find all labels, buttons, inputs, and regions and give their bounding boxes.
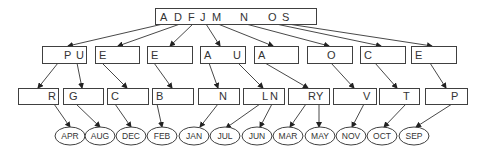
leaf-label: OCT [373,131,391,141]
edge-level3-to-leaf [200,104,218,127]
edge-root-to-level2 [218,24,273,46]
node-key: N [270,90,278,102]
leaf-node: AUG [85,127,115,145]
level3-node: N [199,89,240,105]
edge-level3-to-leaf [226,104,260,128]
node-key: E [415,49,422,61]
leaf-label: NOV [342,131,361,141]
edge-level2-to-level3 [102,63,127,88]
level3-node: R [19,89,59,105]
level2-node: E [148,47,193,64]
node-key: N [240,11,248,23]
edge-level2-to-level3 [238,63,263,88]
diagram-canvas: ADFJMNOSPUEEAUAOCERGCBNLNRYVTPAPRAUGDECF… [0,0,488,157]
level3-node: B [153,89,194,105]
leaf-label: APR [61,131,78,141]
leaf-node: JUN [242,127,272,145]
node-key: B [156,90,163,102]
leaf-node: JUL [210,127,240,145]
leaf-node: JAN [179,127,209,145]
node-key: R [48,90,56,102]
edge-level3-to-leaf [416,104,452,127]
leaf-label: AUG [91,131,109,141]
level3-node-box [426,89,468,105]
node-key: C [111,90,119,102]
edge-level2-to-level3 [375,63,397,88]
level2-node: E [412,47,457,64]
edge-root-to-level2 [170,24,193,46]
level3-node: G [64,89,104,105]
node-key: E [151,49,158,61]
leaf-node: MAY [305,127,335,145]
level3-node: LN [244,89,285,105]
node-key: R [308,90,316,102]
leaf-node: MAR [273,127,303,145]
node-key: D [174,11,182,23]
nodes: ADFJMNOSPUEEAUAOCERGCBNLNRYVTPAPRAUGDECF… [19,9,468,146]
edge-level3-to-leaf [384,104,406,127]
level2-node: A [255,47,299,64]
level2-node: AU [201,47,246,64]
edge-root-to-level2 [288,24,432,46]
level3-node: V [334,89,377,105]
leaf-node: OCT [367,127,397,145]
leaf-label: JUN [249,131,266,141]
level3-node-box [380,89,420,105]
leaf-label: MAY [311,131,329,141]
leaf-label: SEP [405,131,422,141]
leaf-label: JAN [186,131,202,141]
leaf-label: FEB [154,131,171,141]
node-key: O [327,49,336,61]
edge-level3-to-leaf [76,104,100,127]
node-key: L [262,90,268,102]
node-key: N [219,90,227,102]
level2-node: PU [43,47,87,64]
level3-node: C [108,89,149,105]
leaf-node: FEB [147,127,177,145]
node-key: U [76,49,84,61]
node-key: O [268,11,277,23]
leaf-node: SEP [399,127,429,145]
btree-diagram: ADFJMNOSPUEEAUAOCERGCBNLNRYVTPAPRAUGDECF… [0,0,488,157]
level2-node: O [308,47,353,64]
node-key: U [233,49,241,61]
edge-root-to-level2 [206,24,220,46]
edge-level3-to-leaf [352,104,364,127]
edge-level2-to-level3 [209,63,218,88]
edge-level2-to-level3 [38,63,58,88]
node-key: E [99,49,106,61]
level3-node: RY [289,89,330,105]
level3-node: T [380,89,420,105]
node-key: P [451,90,458,102]
edge-level3-to-leaf [157,104,162,127]
edge-level3-to-leaf [260,104,272,127]
node-key: A [160,11,168,23]
node-key: Y [316,90,324,102]
node-key: S [282,11,289,23]
edge-root-to-level2 [276,24,381,46]
node-key: A [204,49,212,61]
edge-level2-to-level3 [154,63,172,88]
edge-level2-to-level3 [430,63,446,88]
level3-node: P [426,89,468,105]
edge-level3-to-leaf [115,104,131,127]
leaf-label: JUL [217,131,232,141]
node-key: F [188,11,195,23]
edges [38,24,452,128]
node-key: J [200,11,206,23]
level2-node: C [361,47,406,64]
node-key: M [212,11,221,23]
leaf-node: APR [55,127,85,145]
node-key: A [258,49,266,61]
leaf-label: MAR [279,131,298,141]
leaf-node: NOV [336,127,366,145]
level2-node: E [96,47,140,64]
node-key: P [64,49,71,61]
edge-level2-to-level3 [331,63,354,88]
edge-level2-to-level3 [265,63,308,88]
node-key: G [69,90,78,102]
node-key: C [364,49,372,61]
node-key: V [363,90,371,102]
leaf-node: DEC [116,127,146,145]
root-node: ADFJMNOS [156,9,317,25]
